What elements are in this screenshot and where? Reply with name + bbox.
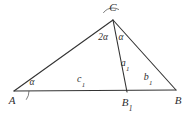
- angle-label-alpha-C: α: [119, 33, 124, 43]
- vertex-label-B1: B1: [122, 97, 132, 111]
- vertex-label-C: C: [109, 2, 116, 16]
- side-label-c1: c1: [77, 74, 85, 87]
- vertex-label-A-text: A: [9, 94, 16, 106]
- angle-label-alpha-A-text: α: [30, 77, 35, 87]
- side-label-c1-text: c: [77, 73, 81, 84]
- angle-arcs: [26, 8, 119, 100]
- angle-label-alpha-A: α: [30, 78, 35, 88]
- side-label-c1-sub: 1: [82, 80, 85, 87]
- vertex-label-B1-text: B: [122, 96, 129, 108]
- angle-label-two-alpha-C: 2α: [98, 33, 108, 43]
- vertex-label-C-text: C: [109, 1, 116, 13]
- base-AB: [14, 90, 176, 91]
- angle-label-alpha-C-text: α: [119, 32, 124, 42]
- angle-label-two-alpha-C-text: 2α: [98, 32, 108, 42]
- geometry-canvas: [0, 0, 189, 115]
- side-label-a1-sub: 1: [126, 64, 129, 71]
- geometry-figure: A B1 B C c1 b1 a1 α 2α α: [0, 0, 189, 115]
- vertex-label-B1-sub: 1: [129, 104, 133, 113]
- vertex-label-B-text: B: [175, 94, 182, 106]
- side-label-a1: a1: [121, 58, 129, 71]
- vertex-label-B: B: [175, 95, 182, 109]
- arc-at-A: [26, 91, 29, 100]
- side-label-b1: b1: [144, 72, 152, 85]
- side-label-b1-sub: 1: [149, 78, 152, 85]
- vertex-label-A: A: [9, 95, 16, 109]
